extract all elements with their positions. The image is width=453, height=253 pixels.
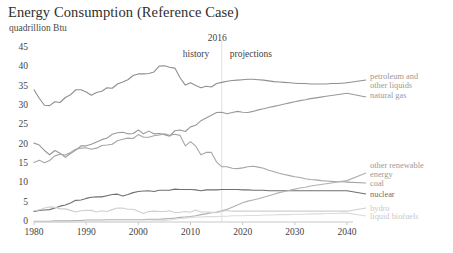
y-axis-tick-label: 15 xyxy=(2,158,28,168)
y-axis-tick-label: 0 xyxy=(2,216,28,226)
x-axis-tick-label: 2000 xyxy=(118,227,158,237)
series-leader-line xyxy=(347,182,366,183)
series-leader-line xyxy=(347,173,366,181)
series-label-line: petroleum and xyxy=(370,72,418,81)
x-axis-tick-label: 2030 xyxy=(275,227,315,237)
y-axis-tick-label: 10 xyxy=(2,177,28,187)
history-label: history xyxy=(183,49,209,59)
series-label-line: natural gas xyxy=(370,91,407,100)
series-label: liquid biofuels xyxy=(370,212,419,221)
x-axis-tick-label: 2010 xyxy=(171,227,211,237)
series-label: natural gas xyxy=(370,91,407,100)
y-axis-tick-label: 5 xyxy=(2,197,28,207)
series-line xyxy=(34,181,347,222)
series-label-line: liquid biofuels xyxy=(370,212,419,221)
series-label: petroleum andother liquids xyxy=(370,72,418,91)
chart-container: Energy Consumption (Reference Case) quad… xyxy=(0,0,453,253)
series-leader-line xyxy=(347,191,366,194)
series-label-line: energy xyxy=(370,170,424,179)
series-line xyxy=(34,189,347,211)
series-label-line: other liquids xyxy=(370,81,418,90)
series-leader-line xyxy=(347,208,366,211)
x-axis-tick-label: 1980 xyxy=(14,227,54,237)
series-line xyxy=(34,66,347,106)
series-label-line: other renewable xyxy=(370,161,424,170)
y-axis-tick-label: 20 xyxy=(2,139,28,149)
series-label: other renewableenergy xyxy=(370,161,424,180)
x-axis-tick-label: 2040 xyxy=(327,227,367,237)
series-line xyxy=(34,207,347,214)
series-leader-line xyxy=(347,213,366,216)
series-label: coal xyxy=(370,179,384,188)
series-leader-line xyxy=(347,93,366,97)
y-axis-tick-label: 35 xyxy=(2,81,28,91)
series-label-line: coal xyxy=(370,179,384,188)
y-axis-tick-label: 30 xyxy=(2,100,28,110)
y-axis-tick-label: 40 xyxy=(2,61,28,71)
series-label-line: nuclear xyxy=(370,190,395,199)
x-axis-tick-label: 2020 xyxy=(223,227,263,237)
y-axis-tick-label: 25 xyxy=(2,119,28,129)
x-axis-tick-label: 1990 xyxy=(66,227,106,237)
divider-year-label: 2016 xyxy=(208,33,227,43)
y-axis-tick-label: 45 xyxy=(2,42,28,52)
series-label: nuclear xyxy=(370,190,395,199)
projections-label: projections xyxy=(230,49,272,59)
series-leader-line xyxy=(347,80,366,83)
series-line xyxy=(34,134,347,182)
